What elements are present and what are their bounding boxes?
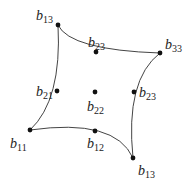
point-b22 [93,90,98,95]
edge-top [58,25,160,53]
label-b12: b12 [87,136,104,153]
point-b33 [158,51,163,56]
label-b23_top: b23 [88,35,105,52]
point-b13_bottom [131,156,136,161]
edge-bottom [30,127,133,158]
point-b13_top [56,23,61,28]
edge-right [132,53,160,158]
label-b23_right: b23 [139,85,156,102]
label-b11: b11 [10,136,27,153]
label-b21: b21 [36,84,53,101]
label-b33: b33 [165,37,182,54]
bezier-control-net-diagram: b13b23b33b21b22b23b11b12b13 [0,0,193,185]
point-b11 [28,128,33,133]
label-b13_top: b13 [36,8,53,25]
point-b21 [55,89,60,94]
edge-left [30,25,58,130]
point-b23_right [132,90,137,95]
point-b12 [93,129,98,134]
label-b22: b22 [87,99,104,116]
label-b13_bottom: b13 [138,163,155,180]
